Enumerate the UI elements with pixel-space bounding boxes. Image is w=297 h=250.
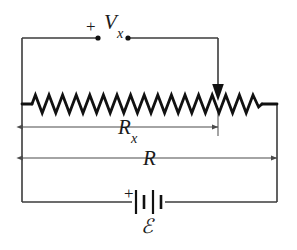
terminal-dot-left[interactable] [95, 35, 100, 40]
circuit-diagram-figure: + Vx Rx R + ℰ [0, 0, 297, 250]
rx-label: Rx [118, 117, 137, 141]
r-label: R [143, 148, 156, 169]
circuit-schematic-svg [0, 0, 297, 250]
emf-symbol-label: ℰ [141, 216, 153, 236]
rx-subscript: x [131, 130, 137, 146]
terminal-dot-right[interactable] [125, 35, 130, 40]
plus-sign-battery-label: + [124, 185, 134, 202]
rx-symbol: R [118, 115, 131, 139]
vx-subscript: x [117, 25, 123, 41]
vx-label: Vx [104, 12, 123, 36]
plus-sign-vx-label: + [86, 18, 96, 35]
resistor-zigzag-body [32, 95, 262, 113]
vx-symbol: V [104, 10, 117, 34]
